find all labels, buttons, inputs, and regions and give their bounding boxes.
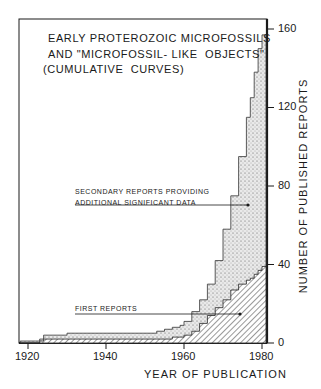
y-axis-label: NUMBER OF PUBLISHED REPORTS [297, 79, 309, 293]
x-tick-label-1960: 1960 [171, 350, 195, 362]
x-tick-label-1940: 1940 [93, 350, 117, 362]
secondary-reports-annotation: SECONDARY REPORTS PROVIDING ADDITIONAL S… [75, 186, 209, 208]
x-axis-label: YEAR OF PUBLICATION [144, 368, 287, 380]
secondary-leader-dot [246, 203, 249, 206]
title-line-2: AND "MICROFOSSIL- LIKE OBJECTS" [48, 47, 271, 63]
y-tick-label-40: 40 [278, 258, 290, 270]
y-tick-label-160: 160 [278, 22, 296, 34]
first-leader-dot [238, 312, 241, 315]
title-line-3: (CUMULATIVE CURVES) [43, 62, 271, 78]
chart-title: EARLY PROTEROZOIC MICROFOSSILSAND "MICRO… [48, 31, 271, 78]
x-tick-label-1980: 1980 [249, 350, 273, 362]
secondary-label-line-1: SECONDARY REPORTS PROVIDING [75, 186, 209, 197]
y-tick-label-120: 120 [278, 100, 296, 112]
first-reports-annotation: FIRST REPORTS [75, 303, 137, 314]
y-tick-label-80: 80 [278, 179, 290, 191]
x-tick-label-1920: 1920 [15, 350, 39, 362]
title-line-1: EARLY PROTEROZOIC MICROFOSSILS [48, 31, 271, 47]
y-tick-label-0: 0 [278, 336, 284, 348]
secondary-label-line-2: ADDITIONAL SIGNIFICANT DATA [75, 197, 209, 208]
